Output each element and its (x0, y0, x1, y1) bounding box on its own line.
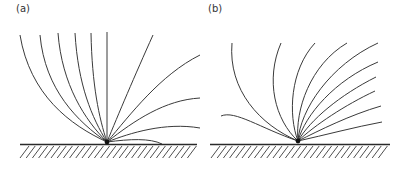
field-line (232, 43, 298, 141)
field-line (298, 62, 378, 141)
field-line (298, 43, 378, 141)
panel-b-field-lines (221, 43, 382, 141)
field-line (58, 33, 107, 142)
panel-a-field-lines (20, 32, 200, 144)
panel-a (20, 32, 200, 158)
point-source (105, 140, 110, 145)
point-source (296, 139, 301, 144)
field-line (107, 126, 200, 142)
field-line (298, 106, 381, 141)
panel-b (210, 43, 390, 158)
field-line (298, 43, 347, 141)
diagram-canvas (0, 0, 403, 169)
ground-hatching (211, 146, 387, 158)
ground-hatching (20, 146, 196, 158)
field-line (107, 35, 153, 142)
field-line (20, 35, 107, 142)
field-line (91, 33, 107, 142)
field-line (40, 35, 107, 142)
field-line (107, 98, 200, 142)
field-line (107, 140, 162, 144)
